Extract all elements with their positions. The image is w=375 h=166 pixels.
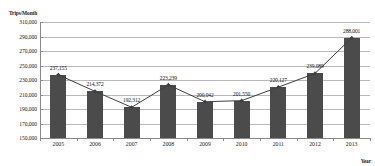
- x-axis-tick-mark: [370, 138, 371, 141]
- y-axis-title: Trips/Month: [9, 10, 37, 16]
- y-axis-tick-mark: [40, 80, 43, 81]
- chart-container: Trips/Month 310,000290,000270,000250,000…: [0, 0, 375, 166]
- x-axis-tick-labels: 200520062007200820092010201120122013: [40, 141, 370, 153]
- x-axis-tick-mark: [150, 138, 151, 141]
- data-label: 223,239: [160, 75, 177, 81]
- x-axis-tick-mark: [187, 138, 188, 141]
- y-axis-tick-mark: [40, 95, 43, 96]
- x-axis-tick-label: 2011: [273, 141, 284, 147]
- data-label: 192,312: [123, 97, 140, 103]
- x-axis-tick-mark: [297, 138, 298, 141]
- x-axis-tick-mark: [223, 138, 224, 141]
- y-axis-tick-mark: [40, 37, 43, 38]
- x-axis-tick-label: 2013: [346, 141, 358, 147]
- y-axis-tick-label: 310,000: [19, 19, 37, 25]
- data-label: 201,550: [233, 91, 250, 97]
- y-axis-tick-label: 170,000: [19, 121, 37, 127]
- y-axis-tick-mark: [40, 66, 43, 67]
- data-label: 288,001: [343, 28, 360, 34]
- x-axis-title: Year: [361, 158, 371, 164]
- y-axis-tick-label: 150,000: [19, 135, 37, 141]
- gridline: [40, 138, 370, 139]
- x-axis-tick-mark: [260, 138, 261, 141]
- data-label: 237,155: [50, 65, 67, 71]
- x-axis-tick-label: 2006: [89, 141, 101, 147]
- data-label: 239,089: [306, 63, 323, 69]
- x-axis-tick-label: 2007: [126, 141, 138, 147]
- x-axis-tick-mark: [333, 138, 334, 141]
- y-axis-tick-mark: [40, 124, 43, 125]
- y-axis-tick-label: 270,000: [19, 48, 37, 54]
- y-axis-tick-label: 190,000: [19, 106, 37, 112]
- y-axis-tick-mark: [40, 51, 43, 52]
- x-axis-tick-label: 2012: [309, 141, 321, 147]
- x-axis-tick-mark: [40, 138, 41, 141]
- y-axis-tick-label: 210,000: [19, 92, 37, 98]
- data-label: 220,127: [270, 77, 287, 83]
- y-axis-tick-label: 250,000: [19, 63, 37, 69]
- y-axis-tick-label: 230,000: [19, 77, 37, 83]
- data-label: 200,042: [196, 92, 213, 98]
- x-axis-tick-mark: [77, 138, 78, 141]
- y-axis-tick-labels: 310,000290,000270,000250,000230,000210,0…: [0, 22, 37, 138]
- x-axis-tick-label: 2005: [53, 141, 65, 147]
- x-axis-tick-mark: [113, 138, 114, 141]
- y-axis-tick-mark: [40, 22, 43, 23]
- x-axis-tick-label: 2010: [236, 141, 248, 147]
- data-label: 214,372: [86, 81, 103, 87]
- y-axis-tick-mark: [40, 109, 43, 110]
- x-axis-tick-label: 2009: [199, 141, 211, 147]
- y-axis-tick-label: 290,000: [19, 34, 37, 40]
- data-labels: 237,155214,372192,312223,239200,042201,5…: [40, 22, 370, 138]
- x-axis-tick-label: 2008: [163, 141, 175, 147]
